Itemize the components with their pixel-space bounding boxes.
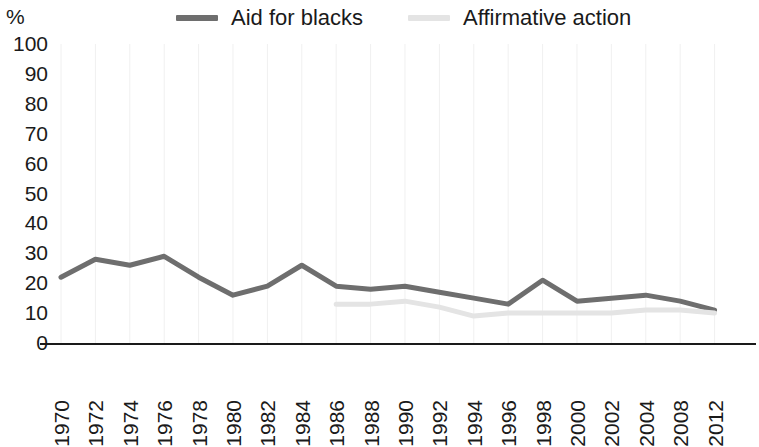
y-tick-label: 50	[2, 183, 48, 204]
legend-swatch-aid-for-blacks	[176, 15, 218, 21]
x-tick-label: 1996	[498, 400, 519, 447]
x-tick-label: 1984	[292, 400, 313, 447]
y-tick-label: 80	[2, 93, 48, 114]
x-tick-label: 1976	[154, 400, 175, 447]
x-tick-label: 2004	[636, 400, 657, 447]
x-axis-tick-labels: 1970197219741976197819801982198419861988…	[55, 348, 755, 404]
legend-label-aid-for-blacks: Aid for blacks	[231, 7, 363, 29]
x-tick-label: 1972	[85, 400, 106, 447]
x-axis-line	[40, 343, 756, 345]
y-tick-label: 20	[2, 272, 48, 293]
series-lines	[61, 256, 715, 316]
plot-area	[55, 44, 755, 343]
y-tick-label: 70	[2, 123, 48, 144]
plot-svg	[55, 44, 755, 343]
x-tick-label: 1986	[326, 400, 347, 447]
y-tick-label: 60	[2, 153, 48, 174]
x-tick-label: 1978	[189, 400, 210, 447]
legend-swatch-affirmative-action	[408, 15, 450, 21]
y-tick-label: 40	[2, 212, 48, 233]
x-tick-label: 1994	[464, 400, 485, 447]
legend-item-aid-for-blacks[interactable]: Aid for blacks	[176, 3, 363, 33]
x-tick-label: 1974	[120, 400, 141, 447]
x-tick-label: 1982	[257, 400, 278, 447]
legend-label-affirmative-action: Affirmative action	[463, 7, 631, 29]
x-tick-label: 1998	[533, 400, 554, 447]
y-tick-label: 90	[2, 63, 48, 84]
y-tick-label: 30	[2, 242, 48, 263]
x-tick-label: 1980	[223, 400, 244, 447]
x-tick-label: 2000	[567, 400, 588, 447]
chart-legend: Aid for blacks Affirmative action	[0, 0, 759, 36]
legend-item-affirmative-action[interactable]: Affirmative action	[408, 3, 631, 33]
x-tick-label: 1990	[395, 400, 416, 447]
x-tick-label: 2008	[670, 400, 691, 447]
y-tick-label: 100	[2, 33, 48, 54]
x-tick-label: 1992	[429, 400, 450, 447]
x-tick-label: 1970	[51, 400, 72, 447]
series-line-affirmative-action	[336, 301, 714, 316]
y-tick-label: 10	[2, 302, 48, 323]
x-tick-label: 1988	[361, 400, 382, 447]
x-tick-label: 2002	[601, 400, 622, 447]
x-tick-label: 2012	[705, 400, 726, 447]
